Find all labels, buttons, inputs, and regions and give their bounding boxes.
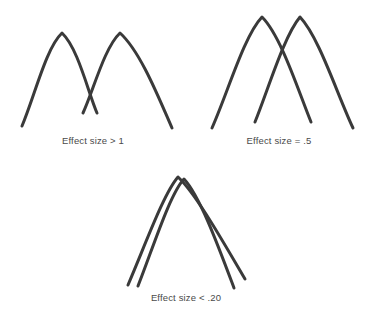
curve-panel2-distribution-a: [212, 17, 311, 128]
panel-effect-size-eq-point5: [212, 17, 353, 128]
panel-label-effect-size-gt-1: Effect size > 1: [0, 135, 186, 147]
panel-effect-size-gt-1: [22, 33, 172, 128]
panel-label-effect-size-lt-point20: Effect size < .20: [91, 292, 281, 304]
panel-effect-size-lt-point20: [128, 177, 245, 288]
curve-panel1-distribution-a: [22, 33, 97, 126]
curve-panel2-distribution-b: [255, 17, 353, 128]
panel-label-effect-size-eq-point5: Effect size = .5: [186, 135, 372, 147]
effect-size-figure: [0, 0, 372, 313]
